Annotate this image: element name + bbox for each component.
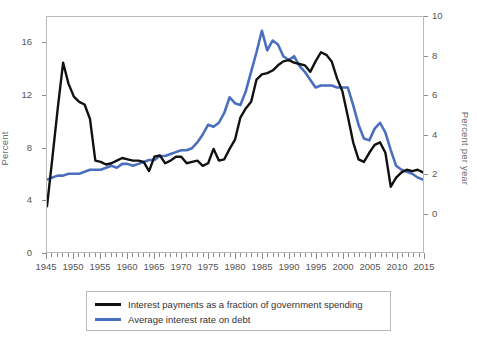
x-axis-major-tick-mark [424,253,425,259]
x-axis-minor-tick-mark [143,253,144,257]
y-axis-right-tick-mark [424,174,428,175]
x-axis-major-tick-mark [73,253,74,259]
x-axis-minor-tick-mark [149,253,150,257]
y-axis-right-tick-label: 6 [432,89,456,100]
x-axis-major-tick-mark [100,253,101,259]
x-axis-minor-tick-mark [105,253,106,257]
x-axis-minor-tick-mark [138,253,139,257]
x-axis-minor-tick-mark [359,253,360,257]
y-axis-right-tick-label: 2 [432,168,456,179]
x-axis-minor-tick-mark [170,253,171,257]
x-axis-minor-tick-mark [278,253,279,257]
y-axis-right-tick-mark [424,56,428,57]
legend-item-average-interest-rate: Average interest rate on debt [95,312,382,327]
legend-label-average-interest-rate: Average interest rate on debt [128,312,250,327]
x-axis-minor-tick-mark [219,253,220,257]
x-axis-minor-tick-mark [386,253,387,257]
x-axis-minor-tick-mark [273,253,274,257]
y-axis-right-tick-label: 8 [432,50,456,61]
x-axis-minor-tick-mark [375,253,376,257]
x-axis-minor-tick-mark [57,253,58,257]
x-axis-minor-tick-mark [95,253,96,257]
x-axis-minor-tick-mark [311,253,312,257]
x-axis-minor-tick-mark [348,253,349,257]
x-axis-major-tick-mark [154,253,155,259]
chart-figure: Percent Percent per year 0481216 0246810… [0,0,477,343]
x-axis-minor-tick-mark [240,253,241,257]
legend-label-interest-payments: Interest payments as a fraction of gover… [128,297,362,312]
y-axis-left-tick-label: 16 [8,36,32,47]
y-axis-right-tick-label: 10 [432,10,456,21]
x-axis-major-tick-mark [343,253,344,259]
x-axis-minor-tick-mark [365,253,366,257]
x-axis-minor-tick-mark [413,253,414,257]
x-axis-minor-tick-mark [213,253,214,257]
x-axis-minor-tick-mark [132,253,133,257]
x-axis-major-tick-mark [262,253,263,259]
x-axis-minor-tick-mark [300,253,301,257]
x-axis-minor-tick-mark [116,253,117,257]
x-axis-minor-tick-mark [159,253,160,257]
x-axis-major-tick-mark [208,253,209,259]
x-axis-minor-tick-mark [332,253,333,257]
chart-legend: Interest payments as a fraction of gover… [86,291,391,331]
x-axis-major-tick-mark [289,253,290,259]
legend-item-interest-payments: Interest payments as a fraction of gover… [95,297,382,312]
x-axis-minor-tick-mark [257,253,258,257]
x-axis-minor-tick-mark [230,253,231,257]
y-axis-right-tick-label: 4 [432,129,456,140]
x-axis-minor-tick-mark [381,253,382,257]
x-axis-minor-tick-mark [354,253,355,257]
x-axis-major-tick-mark [370,253,371,259]
x-axis-minor-tick-mark [408,253,409,257]
y-axis-left-tick-label: 0 [8,247,32,258]
x-axis-minor-tick-mark [305,253,306,257]
x-axis-major-tick-mark [181,253,182,259]
x-axis-minor-tick-mark [51,253,52,257]
x-axis-minor-tick-mark [246,253,247,257]
x-axis-minor-tick-mark [62,253,63,257]
legend-swatch-blue-line [95,318,121,321]
x-axis-minor-tick-mark [186,253,187,257]
x-axis-minor-tick-mark [321,253,322,257]
y-axis-right-tick-mark [424,95,428,96]
x-axis-minor-tick-mark [338,253,339,257]
x-axis-major-tick-mark [46,253,47,259]
x-axis-minor-tick-mark [203,253,204,257]
x-axis-minor-tick-mark [284,253,285,257]
x-axis-minor-tick-mark [89,253,90,257]
x-axis-major-tick-mark [127,253,128,259]
x-axis-minor-tick-mark [327,253,328,257]
plot-area [46,16,424,253]
x-axis-minor-tick-mark [78,253,79,257]
x-axis-major-tick-mark [316,253,317,259]
x-axis-minor-tick-mark [402,253,403,257]
x-axis-tick-label: 2015 [404,261,444,272]
series-line-interest-payments-fraction [47,52,423,206]
x-axis-minor-tick-mark [122,253,123,257]
y-axis-right-tick-label: 0 [432,208,456,219]
x-axis-major-tick-mark [397,253,398,259]
x-axis-minor-tick-mark [294,253,295,257]
x-axis-minor-tick-mark [419,253,420,257]
x-axis-major-tick-mark [235,253,236,259]
x-axis-minor-tick-mark [165,253,166,257]
x-axis-minor-tick-mark [111,253,112,257]
y-axis-left-tick-label: 8 [8,142,32,153]
y-axis-left-tick-label: 4 [8,194,32,205]
x-axis-minor-tick-mark [176,253,177,257]
y-axis-right-tick-mark [424,135,428,136]
plot-svg [47,17,423,252]
x-axis-minor-tick-mark [192,253,193,257]
x-axis-minor-tick-mark [197,253,198,257]
y-axis-right-tick-mark [424,214,428,215]
y-axis-right-title: Percent per year [460,112,471,185]
x-axis-minor-tick-mark [251,253,252,257]
x-axis-minor-tick-mark [392,253,393,257]
legend-swatch-black-line [95,303,121,306]
x-axis-minor-tick-mark [267,253,268,257]
y-axis-right-tick-mark [424,16,428,17]
y-axis-left-tick-label: 12 [8,89,32,100]
x-axis-minor-tick-mark [84,253,85,257]
x-axis-minor-tick-mark [68,253,69,257]
